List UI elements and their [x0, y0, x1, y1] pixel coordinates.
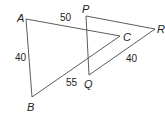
- vertex-label-b: B: [27, 101, 34, 113]
- side-length-ac: 50: [60, 12, 72, 23]
- side-length-bc: 55: [66, 77, 78, 88]
- side-length-ab: 40: [15, 52, 27, 63]
- vertex-label-r: R: [157, 23, 165, 35]
- side-length-qr: 40: [126, 53, 138, 64]
- vertex-label-a: A: [16, 12, 24, 24]
- vertex-label-c: C: [123, 31, 131, 43]
- vertex-label-q: Q: [84, 78, 93, 90]
- diagram-canvas: A B C P Q R 50 40 55 40: [0, 0, 165, 117]
- vertex-label-p: P: [82, 3, 90, 15]
- triangle-pqr: [86, 16, 155, 75]
